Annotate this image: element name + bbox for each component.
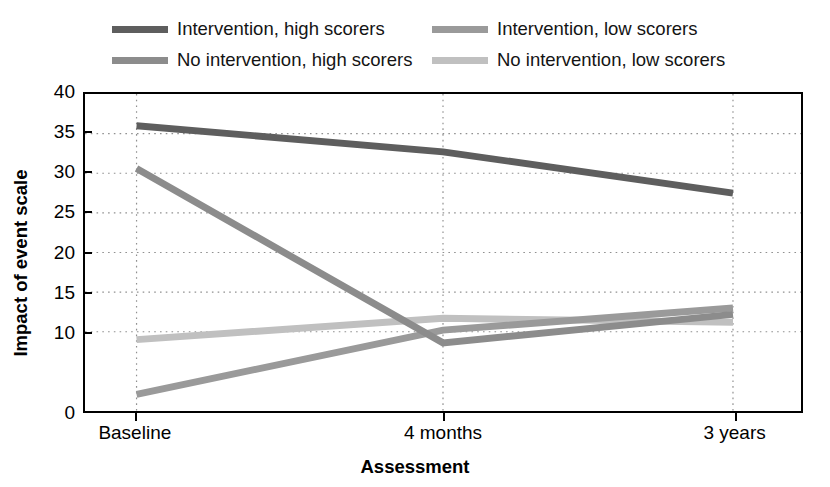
y-axis-tick-label: 30 xyxy=(15,161,75,183)
y-axis-tick-mark xyxy=(83,131,92,133)
y-axis-tick-label: 10 xyxy=(15,322,75,344)
x-axis-tick-mark xyxy=(135,413,137,421)
legend-swatch-icon xyxy=(112,26,168,33)
legend-item-no-intervention-high: No intervention, high scorers xyxy=(112,51,432,70)
x-axis-tick-mark xyxy=(735,413,737,421)
x-axis-tick-label: 4 months xyxy=(404,422,482,444)
chart-figure: Intervention, high scorers Intervention,… xyxy=(0,0,830,487)
legend-swatch-icon xyxy=(432,57,488,64)
plot-frame xyxy=(83,92,803,413)
x-axis-tick-mark xyxy=(443,413,445,421)
y-axis-tick-label: 15 xyxy=(15,282,75,304)
y-axis-tick-mark xyxy=(83,332,92,334)
legend-item-intervention-low: Intervention, low scorers xyxy=(432,20,752,39)
plot-area xyxy=(85,94,801,411)
y-axis-tick-label: 20 xyxy=(15,242,75,264)
y-axis-tick-label: 25 xyxy=(15,201,75,223)
legend-label: No intervention, low scorers xyxy=(497,51,725,70)
y-axis-tick-mark xyxy=(83,292,92,294)
x-axis-tick-label: 3 years xyxy=(703,422,765,444)
x-axis-tick-label: Baseline xyxy=(98,422,171,444)
chart-legend: Intervention, high scorers Intervention,… xyxy=(112,14,752,76)
y-axis-tick-label: 40 xyxy=(15,81,75,103)
y-axis-tick-mark xyxy=(83,171,92,173)
legend-item-no-intervention-low: No intervention, low scorers xyxy=(432,51,752,70)
legend-swatch-icon xyxy=(112,57,168,64)
y-axis-tick-mark xyxy=(83,252,92,254)
data-series-lines xyxy=(85,94,801,411)
y-axis-tick-label: 0 xyxy=(15,402,75,424)
legend-swatch-icon xyxy=(432,26,488,33)
y-axis-tick-labels: 010152025303540 xyxy=(13,92,75,413)
y-axis-tick-mark xyxy=(83,211,92,213)
legend-item-intervention-high: Intervention, high scorers xyxy=(112,20,432,39)
y-axis-tick-label: 35 xyxy=(15,121,75,143)
legend-label: No intervention, high scorers xyxy=(177,51,412,70)
legend-label: Intervention, high scorers xyxy=(177,20,385,39)
x-axis-title: Assessment xyxy=(0,456,830,478)
legend-label: Intervention, low scorers xyxy=(497,20,698,39)
